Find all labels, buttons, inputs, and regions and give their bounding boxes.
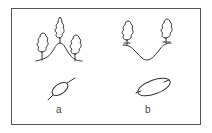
panel-label-b: b xyxy=(145,104,151,115)
tree-icon xyxy=(55,17,64,43)
tree-icon xyxy=(37,33,48,60)
ridge-symbol-icon xyxy=(48,78,75,100)
panel-label-a: a xyxy=(56,104,62,115)
diagram-canvas xyxy=(0,0,212,133)
tree-icon xyxy=(161,19,172,43)
tree-icon xyxy=(122,21,133,45)
valley-symbol-icon xyxy=(136,75,173,100)
valley-profile xyxy=(123,43,171,60)
